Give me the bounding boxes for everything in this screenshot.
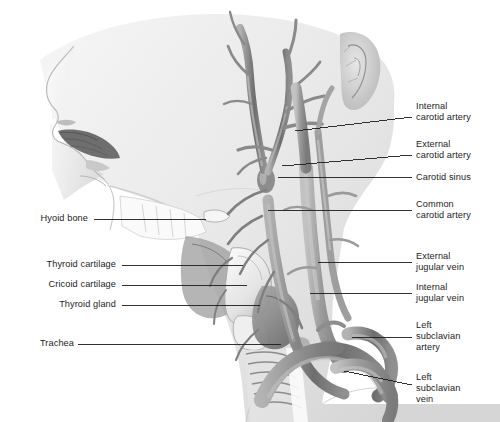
label-cricoid-cartilage: Cricoid cartilage — [26, 279, 116, 290]
anatomy-figure-page: Internal carotid arteryExternal carotid … — [0, 0, 500, 422]
label-internal-jugular-vein: Internal jugular vein — [416, 282, 464, 304]
label-hyoid-bone: Hyoid bone — [26, 213, 88, 224]
label-thyroid-cartilage: Thyroid cartilage — [26, 259, 116, 270]
label-thyroid-gland: Thyroid gland — [26, 299, 116, 310]
label-carotid-sinus: Carotid sinus — [416, 172, 471, 183]
label-left-subclavian-vein: Left subclavian vein — [416, 372, 460, 406]
label-left-subclavian-artery: Left subclavian artery — [416, 320, 460, 354]
label-external-carotid-artery: External carotid artery — [416, 139, 471, 161]
label-common-carotid-artery: Common carotid artery — [416, 199, 471, 221]
label-internal-carotid-artery: Internal carotid artery — [416, 101, 471, 123]
label-trachea: Trachea — [26, 338, 74, 349]
label-external-jugular-vein: External jugular vein — [416, 251, 464, 273]
